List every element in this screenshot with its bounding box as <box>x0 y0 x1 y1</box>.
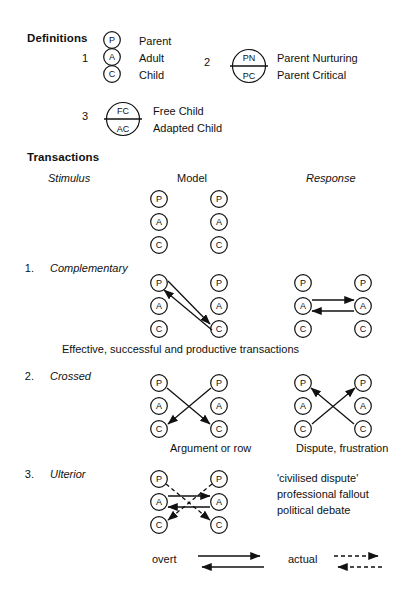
ego-letter-parent-left: P <box>300 278 306 288</box>
crossed-left-diagram: P A C P A C <box>148 372 258 444</box>
ego-letter-child-left: C <box>300 424 307 434</box>
ego-letter-parent-left: P <box>156 278 162 288</box>
ego-letter-child-right: C <box>216 424 223 434</box>
ego-letter-child-left: C <box>156 520 163 530</box>
definition-number-1: 1 <box>48 52 88 65</box>
arrow-child-to-parent <box>164 290 212 330</box>
ego-letter-child-right: C <box>360 424 367 434</box>
complementary-left-diagram: P A C P A C <box>148 272 258 344</box>
ego-letter-adult-right: A <box>216 497 222 507</box>
ego-letter-child-right: C <box>216 324 223 334</box>
ulterior-note-1: 'civilised dispute' <box>277 472 358 485</box>
ego-letter-adult-right: A <box>360 401 366 411</box>
definition-1-label-child: Child <box>139 69 164 82</box>
ego-letter-child-right: C <box>216 520 223 530</box>
transaction-number-1: 1. <box>20 262 34 275</box>
ego-letter-adult-left: A <box>156 301 162 311</box>
ego-letter-parent-right: P <box>360 278 366 288</box>
ego-letter-child-left: C <box>156 240 163 250</box>
crossed-left-caption: Argument or row <box>170 442 251 455</box>
model-reference-pair: P A C P A C <box>148 188 258 260</box>
ego-letter-adult-right: A <box>216 301 222 311</box>
split-label-top: FC <box>117 106 129 116</box>
ego-letter-child-left: C <box>156 424 163 434</box>
ego-letter-parent-right: P <box>216 474 222 484</box>
definition-1-label-adult: Adult <box>139 52 164 65</box>
crossed-right-caption: Dispute, frustration <box>296 442 388 455</box>
ulterior-diagram: P A C P A C <box>148 468 258 540</box>
split-label-bottom: PC <box>243 71 256 81</box>
ego-letter-child: C <box>109 69 116 79</box>
transaction-number-3: 3. <box>20 468 34 481</box>
ego-letter-adult-left: A <box>156 497 162 507</box>
legend-actual-arrows <box>332 548 392 574</box>
ego-letter-parent-right: P <box>216 378 222 388</box>
definition-2-label-nurturing: Parent Nurturing <box>277 52 358 65</box>
ego-letter-adult-left: A <box>300 301 306 311</box>
complementary-right-diagram: P A C P A C <box>292 272 402 344</box>
ego-letter-parent-left: P <box>156 194 162 204</box>
definition-1-label-parent: Parent <box>139 35 171 48</box>
transactions-heading: Transactions <box>27 151 99 165</box>
legend-overt-arrows <box>196 548 268 574</box>
definition-number-3: 3 <box>48 110 88 123</box>
transaction-label-ulterior: Ulterior <box>50 468 85 481</box>
split-label-top: PN <box>243 53 256 63</box>
ego-letter-parent-left: P <box>156 378 162 388</box>
ego-letter-adult-right: A <box>216 217 222 227</box>
ego-letter-parent-right: P <box>360 378 366 388</box>
definition-number-2: 2 <box>188 56 210 69</box>
definition-2-split-circle: PN PC <box>226 46 272 86</box>
definition-3-label-adapted-child: Adapted Child <box>153 122 222 135</box>
complementary-caption: Effective, successful and productive tra… <box>62 343 299 356</box>
definition-2-label-critical: Parent Critical <box>277 69 346 82</box>
ego-letter-child-right: C <box>360 324 367 334</box>
ego-letter-parent-right: P <box>216 194 222 204</box>
transaction-label-complementary: Complementary <box>50 262 128 275</box>
definition-3-label-free-child: Free Child <box>153 105 204 118</box>
definition-1-ego-stack: P A C <box>99 30 139 88</box>
ego-letter-parent: P <box>109 35 115 45</box>
transactional-analysis-diagram: Definitions 1 P A C Parent Adult Child 2… <box>0 0 414 593</box>
ego-letter-adult-left: A <box>156 401 162 411</box>
ego-letter-adult: A <box>109 52 115 62</box>
definitions-heading: Definitions <box>27 32 88 46</box>
ego-letter-adult-right: A <box>360 301 366 311</box>
ego-letter-child-left: C <box>300 324 307 334</box>
legend-label-actual: actual <box>288 553 317 566</box>
ego-letter-adult-left: A <box>300 401 306 411</box>
arrow-parent-to-child <box>168 281 210 324</box>
dashed-arrow-parent-left-to-child-right <box>166 484 210 520</box>
ego-letter-child-right: C <box>216 240 223 250</box>
ego-letter-parent-left: P <box>156 474 162 484</box>
dashed-arrow-parent-right-to-child-left <box>168 484 212 520</box>
ego-letter-adult-right: A <box>216 401 222 411</box>
transaction-number-2: 2. <box>20 370 34 383</box>
ulterior-note-2: professional fallout <box>277 488 369 501</box>
legend-label-overt: overt <box>152 553 176 566</box>
transaction-label-crossed: Crossed <box>50 370 91 383</box>
crossed-right-diagram: P A C P A C <box>292 372 402 444</box>
ego-letter-adult-left: A <box>156 217 162 227</box>
column-header-stimulus: Stimulus <box>48 172 90 185</box>
ego-letter-parent-left: P <box>300 378 306 388</box>
ego-letter-child-left: C <box>156 324 163 334</box>
split-label-bottom: AC <box>117 124 130 134</box>
ego-letter-parent-right: P <box>216 278 222 288</box>
definition-3-split-circle: FC AC <box>100 98 146 140</box>
ulterior-note-3: political debate <box>277 504 350 517</box>
column-header-model: Model <box>177 172 207 185</box>
column-header-response: Response <box>306 172 356 185</box>
